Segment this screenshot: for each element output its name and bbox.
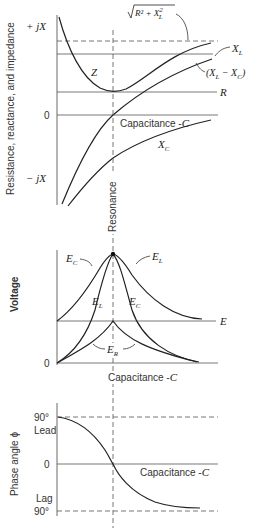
xl-leader <box>215 47 230 56</box>
voltage-plot: Voltage 0 EC EL EL EC E ER Capacitance -… <box>9 250 227 384</box>
phase-curve <box>58 417 200 508</box>
z-label: Z <box>91 66 98 78</box>
er-leader-right <box>123 344 135 349</box>
r-label: R <box>219 86 227 98</box>
ec-inner-label: EC <box>128 295 141 310</box>
el-outer-leader <box>136 256 150 264</box>
el-outer-label: EL <box>151 250 163 265</box>
impedance-plot: Resistance, reactance, and impedance + j… <box>5 5 246 206</box>
y-axis-label: Voltage <box>9 276 20 312</box>
y-neg-label: − jX <box>26 172 47 184</box>
x-axis-label: Capacitance -C <box>140 466 210 478</box>
er-curve <box>57 321 197 363</box>
el-inner-label: EL <box>91 295 103 310</box>
e-label: E <box>219 315 227 327</box>
xl-minus-xc-curve <box>62 59 212 204</box>
er-leader-left <box>93 344 105 349</box>
phase-plot: Phase angle ϕ 90° Lead 0 Lag 90° Capacit… <box>9 403 218 517</box>
sqrt-leader <box>176 14 188 40</box>
peak-point <box>111 252 115 256</box>
y-zero-label: 0 <box>44 459 50 470</box>
xc-label: XC <box>157 138 170 153</box>
ec-outer-label: EC <box>65 252 78 267</box>
ec-outer-curve <box>57 254 113 321</box>
xl-minus-xc-leader <box>196 63 205 72</box>
x-axis-label: Capacitance -C <box>120 117 190 129</box>
ec-inner-curve <box>113 254 199 362</box>
y-axis-label: Phase angle ϕ <box>9 432 20 496</box>
y-lead-label: Lead <box>34 425 56 436</box>
y-top-label: 90° <box>34 412 49 423</box>
y-pos-label: + jX <box>26 20 47 32</box>
resonance-label: Resonance <box>107 181 118 232</box>
el-outer-curve <box>113 254 202 319</box>
x-axis-label: Capacitance -C <box>108 371 178 383</box>
y-axis-label: Resistance, reactance, and impedance <box>5 22 16 195</box>
xc-curve <box>68 120 211 206</box>
xl-minus-xc-label: (XL − XC) <box>206 67 246 81</box>
y-zero-label: 0 <box>44 358 50 369</box>
y-lag-label: Lag <box>36 493 53 504</box>
y-zero-label: 0 <box>44 110 50 121</box>
sqrt-label: R² + X2L <box>134 6 163 21</box>
xl-label: XL <box>231 42 243 57</box>
y-bottom-label: 90° <box>34 506 49 517</box>
ec-outer-leader <box>80 259 92 266</box>
resonance-diagram: Resistance, reactance, and impedance + j… <box>0 0 260 528</box>
